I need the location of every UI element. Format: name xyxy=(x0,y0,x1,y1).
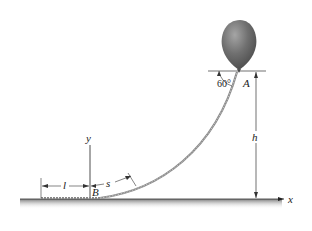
y-axis-label: y xyxy=(85,132,91,144)
balloon-diagram: x y 60° A h l xyxy=(0,0,312,231)
angle-label: 60° xyxy=(217,78,231,89)
length-l-label: l xyxy=(63,179,66,191)
point-b-label: B xyxy=(92,186,99,198)
height-dimension: h xyxy=(251,72,261,198)
point-a-label: A xyxy=(242,77,250,89)
x-axis-label: x xyxy=(287,193,293,205)
rope-curve xyxy=(100,72,237,198)
length-l-dimension: l xyxy=(41,178,89,198)
balloon xyxy=(222,20,257,73)
y-axis: y xyxy=(85,132,91,199)
ground xyxy=(20,199,284,209)
height-label: h xyxy=(252,131,258,143)
arc-s-label: s xyxy=(106,177,110,189)
